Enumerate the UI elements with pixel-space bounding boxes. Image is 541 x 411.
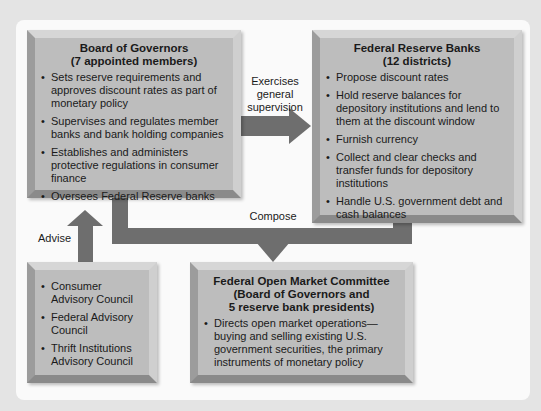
supervision-label: Exercises general supervision <box>242 75 308 114</box>
title-line: Board of Governors <box>41 42 227 55</box>
list-item: Collect and clear checks and transfer fu… <box>326 151 508 190</box>
federal-reserve-banks-title: Federal Reserve Banks (12 districts) <box>326 42 508 68</box>
title-line: Federal Open Market Committee <box>204 275 399 288</box>
supervision-label-line3: supervision <box>242 101 308 114</box>
federal-reserve-banks-list: Propose discount rates Hold reserve bala… <box>326 71 508 221</box>
fomc-title: Federal Open Market Committee (Board of … <box>204 275 399 314</box>
list-item: Supervises and regulates member banks an… <box>41 115 227 141</box>
fomc-list: Directs open market operations—buying an… <box>204 317 399 369</box>
advisory-councils-list: Consumer Advisory Council Federal Adviso… <box>41 280 143 368</box>
supervision-label-line1: Exercises <box>242 75 308 88</box>
board-of-governors-list: Sets reserve requirements and approves d… <box>41 71 227 203</box>
board-of-governors-box: Board of Governors (7 appointed members)… <box>27 30 241 198</box>
list-item: Consumer Advisory Council <box>41 280 143 306</box>
title-line: 5 reserve bank presidents) <box>204 301 399 314</box>
title-line: (12 districts) <box>326 55 508 68</box>
title-line: (7 appointed members) <box>41 55 227 68</box>
list-item: Furnish currency <box>326 133 508 146</box>
title-line: (Board of Governors and <box>204 288 399 301</box>
fomc-box: Federal Open Market Committee (Board of … <box>190 262 413 383</box>
federal-reserve-banks-box: Federal Reserve Banks (12 districts) Pro… <box>312 30 522 223</box>
list-item: Handle U.S. government debt and cash bal… <box>326 195 508 221</box>
advise-label: Advise <box>38 232 78 245</box>
title-line: Federal Reserve Banks <box>326 42 508 55</box>
list-item: Hold reserve balances for depository ins… <box>326 89 508 128</box>
list-item: Sets reserve requirements and approves d… <box>41 71 227 110</box>
board-of-governors-title: Board of Governors (7 appointed members) <box>41 42 227 68</box>
list-item: Thrift Institutions Advisory Council <box>41 342 143 368</box>
list-item: Oversees Federal Reserve banks <box>41 190 227 203</box>
list-item: Federal Advisory Council <box>41 311 143 337</box>
compose-arrow-stem <box>265 240 281 246</box>
advisory-councils-box: Consumer Advisory Council Federal Adviso… <box>27 262 157 383</box>
supervision-arrow-icon <box>241 108 311 148</box>
supervision-label-line2: general <box>242 88 308 101</box>
list-item: Propose discount rates <box>326 71 508 84</box>
compose-label: Compose <box>243 210 303 223</box>
list-item: Directs open market operations—buying an… <box>204 317 399 369</box>
list-item: Establishes and administers protective r… <box>41 146 227 185</box>
